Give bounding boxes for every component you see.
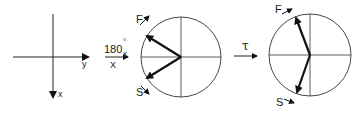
fast-label: F — [275, 4, 282, 15]
circle-2 — [269, 9, 351, 103]
slow-vector-arrow — [147, 57, 181, 78]
y-axis-label: y — [82, 60, 87, 69]
fast-vector-arrow — [296, 18, 310, 55]
slow-vector-arrow — [297, 55, 310, 92]
fast-rotation-arrow-icon — [282, 9, 292, 14]
vector-diagram: y x 180 ° x X F S τ F S — [0, 0, 363, 114]
evolution-label: τ — [242, 40, 249, 52]
fast-vector-arrow — [147, 36, 181, 57]
pulse-axis-label: X — [110, 61, 116, 70]
diagram-canvas — [0, 0, 363, 114]
pulse-subscript: x — [123, 50, 127, 58]
coordinate-axes — [13, 14, 88, 97]
fast-label: F — [136, 14, 143, 25]
pulse-angle-label: 180 — [104, 44, 122, 55]
circle-1 — [140, 16, 221, 97]
x-axis-label: x — [58, 90, 63, 99]
slow-rotation-arrow-icon — [284, 99, 294, 103]
slow-label: S — [136, 87, 143, 98]
pulse-degree-mark: ° — [123, 38, 126, 46]
slow-label: S — [276, 97, 283, 108]
